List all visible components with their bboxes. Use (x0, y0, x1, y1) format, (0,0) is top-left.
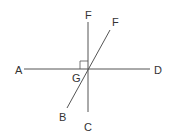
geometry-diagram: A D F F G B C (0, 0, 172, 138)
right-angle-marker (80, 61, 88, 69)
label-G: G (72, 72, 81, 84)
label-A: A (15, 64, 23, 76)
label-F-top: F (85, 9, 92, 21)
label-D: D (154, 64, 162, 76)
label-B: B (59, 111, 66, 123)
label-C: C (84, 121, 92, 133)
label-F-diagonal: F (112, 16, 119, 28)
